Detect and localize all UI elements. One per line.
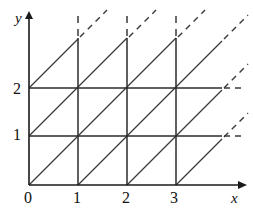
x-axis-label: x xyxy=(231,191,238,206)
diagonal-dashed-upper-right xyxy=(224,15,248,39)
x-tick-label-3: 3 xyxy=(170,190,178,206)
diagonal-dashed-lower-right xyxy=(224,113,248,137)
x-axis-arrowhead xyxy=(238,181,247,189)
horizontal-grid-lines xyxy=(29,88,222,136)
diagonal-dashed-at-x1 xyxy=(80,10,107,37)
diagonal-from-0-0 xyxy=(29,38,176,185)
diagonal-from-0-2 xyxy=(29,39,78,88)
x-tick-label-0: 0 xyxy=(24,190,32,206)
vertical-grid-lines-dashed xyxy=(78,10,176,36)
diagonal-dashed-at-x2 xyxy=(129,10,156,37)
x-tick-label-1: 1 xyxy=(73,190,81,206)
diagonal-from-2-0 xyxy=(127,90,222,185)
y-tick-label-2: 2 xyxy=(13,81,21,97)
diagonal-from-3-0 xyxy=(176,139,222,185)
horizontal-grid-lines-dashed xyxy=(224,88,246,136)
diagonal-dashed-mid-right xyxy=(224,64,248,88)
lattice-diagram xyxy=(0,0,253,214)
y-axis-label: y xyxy=(15,11,22,26)
y-tick-label-1: 1 xyxy=(13,127,21,143)
diagonal-from-1-0 xyxy=(78,41,222,185)
lattice-figure: 0 1 2 3 1 2 x y xyxy=(0,0,253,214)
diagonal-lines-solid xyxy=(29,38,222,185)
x-tick-label-2: 2 xyxy=(122,190,130,206)
diagonal-lines-dashed xyxy=(80,10,248,137)
diagonal-dashed-at-x3 xyxy=(178,10,205,37)
vertical-grid-lines xyxy=(78,38,176,185)
y-axis-arrowhead xyxy=(25,11,33,19)
axes-group xyxy=(25,11,247,189)
